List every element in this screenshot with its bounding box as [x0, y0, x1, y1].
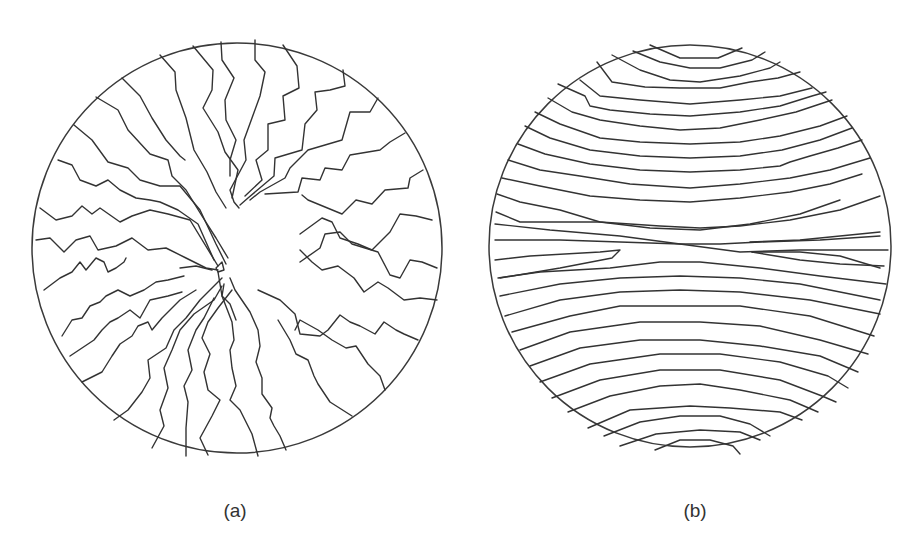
boundary-circle-a [32, 43, 442, 453]
horizontal-lines [495, 45, 888, 454]
panel-a [0, 0, 459, 480]
panel-b [459, 0, 918, 480]
panel-b-label: (b) [655, 500, 735, 522]
panel-a-label: (a) [195, 500, 275, 522]
radial-lines [160, 40, 437, 456]
stratified-pattern-diagram [459, 0, 918, 480]
radial-pattern-diagram [0, 0, 459, 480]
